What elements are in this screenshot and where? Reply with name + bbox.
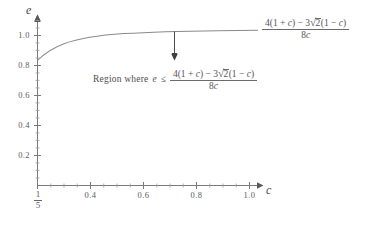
x-tick-label-0.4: 0.4	[79, 191, 103, 200]
region-num-part-d: )	[251, 69, 254, 79]
top-num-part-c: (1 −	[321, 18, 339, 28]
top-right-formula: 4(1 + c) − 3√2(1 − c) 8c	[262, 17, 349, 41]
top-formula-numerator: 4(1 + c) − 3√2(1 − c)	[262, 17, 349, 29]
region-num-part-a: 4(1 +	[173, 69, 196, 79]
fraction-numerator: 1	[34, 190, 43, 199]
top-num-part-d: )	[343, 18, 346, 28]
top-num-part-a: 4(1 +	[265, 18, 288, 28]
region-radical: √2	[218, 68, 229, 79]
region-formula-numerator: 4(1 + c) − 3√2(1 − c)	[170, 68, 257, 80]
y-tick-label-0.6: 0.6	[12, 91, 30, 100]
top-num-part-b: ) − 3	[292, 18, 310, 28]
plot-figure: 1.0 0.8 0.6 0.4 0.2 e 1 5 0.4 0.6 0.8 1.…	[0, 0, 372, 225]
top-den-var: c	[306, 30, 310, 40]
curve-boundary	[38, 30, 259, 60]
x-tick-label-1.0: 1.0	[238, 191, 262, 200]
region-relation-leq: ≤	[161, 75, 166, 85]
region-num-part-c: (1 −	[229, 69, 247, 79]
region-den-var: c	[214, 81, 218, 91]
annotation-arrowhead	[172, 53, 178, 60]
region-annotation-text: Region where	[93, 75, 148, 85]
y-tick-label-1.0: 1.0	[12, 31, 30, 40]
region-variable-e: e	[152, 75, 156, 85]
region-annotation: Region where e ≤ 4(1 + c) − 3√2(1 − c) 8…	[93, 68, 257, 92]
top-formula-fraction: 4(1 + c) − 3√2(1 − c) 8c	[262, 17, 349, 41]
top-radical: √2	[310, 17, 321, 28]
top-formula-denominator: 8c	[262, 30, 349, 41]
y-tick-label-0.4: 0.4	[12, 121, 30, 130]
y-tick-label-0.8: 0.8	[12, 61, 30, 70]
fraction-denominator: 5	[34, 201, 43, 210]
fraction-one-fifth: 1 5	[34, 190, 43, 211]
x-axis-label: c	[266, 184, 271, 196]
x-tick-label-0.6: 0.6	[132, 191, 156, 200]
region-num-part-b: ) − 3	[200, 69, 218, 79]
x-tick-label-one-fifth: 1 5	[31, 190, 45, 211]
y-tick-label-0.2: 0.2	[12, 151, 30, 160]
x-tick-label-0.8: 0.8	[185, 191, 209, 200]
y-axis-label: e	[26, 4, 31, 16]
region-formula-fraction: 4(1 + c) − 3√2(1 − c) 8c	[170, 68, 257, 92]
region-formula-denominator: 8c	[170, 81, 257, 92]
